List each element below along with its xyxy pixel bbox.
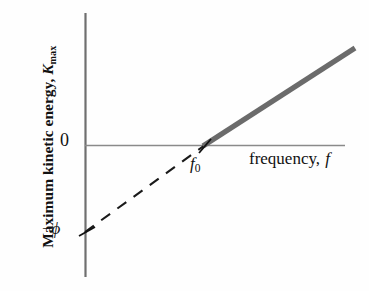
extrapolation-dashed-line (85, 145, 205, 232)
work-function-label: −ϕ (42, 220, 60, 237)
threshold-frequency-label: f0 (190, 155, 201, 174)
work-function-symbol: ϕ (52, 219, 61, 238)
work-function-tick (79, 227, 95, 236)
y-axis-label-subscript: max (47, 46, 58, 65)
kinetic-energy-line (203, 48, 355, 146)
threshold-frequency-subscript: 0 (195, 162, 201, 175)
x-axis-label: frequency, f (249, 150, 330, 167)
x-axis-label-text: frequency, (249, 149, 324, 168)
x-axis-label-symbol: f (324, 149, 330, 168)
work-function-minus-sign: − (42, 219, 52, 238)
origin-tick-label: 0 (60, 131, 69, 149)
photoelectric-effect-chart: Maximum kinetic energy, Kmax frequency, … (0, 0, 369, 291)
y-axis-label-symbol: K (39, 64, 56, 74)
